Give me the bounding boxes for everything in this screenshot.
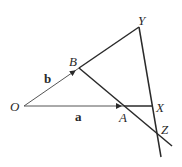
vector-label-a: a — [75, 110, 82, 123]
diagram-lines — [0, 0, 182, 167]
point-label-X: X — [156, 101, 164, 114]
vector-diagram: O B Y A X Z b a — [0, 0, 182, 167]
line-YXZ — [139, 27, 161, 157]
point-label-B: B — [69, 55, 77, 68]
point-label-A: A — [119, 111, 127, 124]
segment-BY — [79, 27, 139, 68]
point-label-O: O — [10, 100, 19, 113]
point-label-Y: Y — [138, 14, 145, 27]
vector-label-b: b — [44, 72, 51, 85]
vector-b-line — [24, 68, 79, 106]
point-label-Z: Z — [161, 123, 168, 136]
